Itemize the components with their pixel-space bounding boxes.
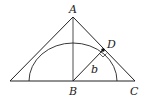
side-left [10,17,73,81]
segment-bd [73,50,103,81]
label-d: D [106,38,116,51]
geometry-diagram: A B C D b [0,0,146,103]
label-a: A [68,3,77,16]
label-c: C [130,85,139,98]
label-b-point: B [68,85,77,98]
point-d [101,48,105,52]
label-b-length: b [91,63,98,76]
